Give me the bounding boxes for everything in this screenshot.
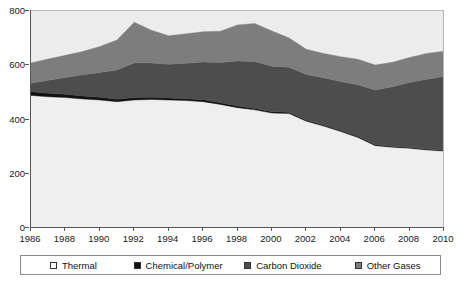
x-tick-mark (202, 227, 203, 231)
legend-item-thermal[interactable]: Thermal (21, 260, 126, 271)
x-tick-label: 1988 (54, 233, 75, 244)
y-tick-label: 600 (9, 59, 25, 70)
x-tick-label: 2000 (260, 233, 281, 244)
x-tick-label: 2008 (398, 233, 419, 244)
y-tick-label: 400 (9, 113, 25, 124)
x-tick-label: 1990 (88, 233, 109, 244)
legend-label: Other Gases (367, 260, 421, 271)
x-tick-mark (237, 227, 238, 231)
x-tick-label: 1998 (226, 233, 247, 244)
legend-label: Chemical/Polymer (146, 260, 223, 271)
x-tick-mark (374, 227, 375, 231)
x-tick-mark (30, 227, 31, 231)
x-tick-mark (64, 227, 65, 231)
legend-item-chemical-polymer[interactable]: Chemical/Polymer (126, 260, 231, 271)
plot-area (30, 10, 444, 228)
x-tick-mark (271, 227, 272, 231)
legend-label: Carbon Dioxide (256, 260, 321, 271)
y-tick-mark (25, 173, 29, 174)
x-tick-mark (133, 227, 134, 231)
x-axis: 1986198819901992199419961998200020022004… (30, 227, 443, 257)
legend-item-other-gases[interactable]: Other Gases (335, 260, 440, 271)
stacked-area-series-group (31, 10, 444, 227)
y-tick-label: 0 (20, 222, 25, 233)
x-tick-mark (168, 227, 169, 231)
y-tick-mark (25, 64, 29, 65)
chart-root: 0200400600800 19861988199019921994199619… (0, 0, 462, 281)
y-axis: 0200400600800 (0, 0, 25, 237)
x-tick-label: 1986 (19, 233, 40, 244)
y-tick-mark (25, 227, 29, 228)
y-tick-mark (25, 119, 29, 120)
x-tick-mark (305, 227, 306, 231)
square-swatch-icon (50, 262, 57, 269)
x-tick-mark (443, 227, 444, 231)
x-tick-mark (340, 227, 341, 231)
x-tick-label: 1992 (123, 233, 144, 244)
y-tick-label: 200 (9, 167, 25, 178)
y-tick-label: 800 (9, 5, 25, 16)
x-tick-mark (99, 227, 100, 231)
square-swatch-icon (134, 262, 141, 269)
x-tick-label: 2004 (329, 233, 350, 244)
legend-label: Thermal (62, 260, 97, 271)
x-tick-mark (409, 227, 410, 231)
x-tick-label: 1994 (157, 233, 178, 244)
square-swatch-icon (244, 262, 251, 269)
x-tick-label: 2006 (364, 233, 385, 244)
x-tick-label: 2002 (295, 233, 316, 244)
legend-item-carbon-dioxide[interactable]: Carbon Dioxide (231, 260, 336, 271)
chart-legend: ThermalChemical/PolymerCarbon DioxideOth… (20, 255, 441, 275)
x-tick-label: 1996 (192, 233, 213, 244)
y-tick-mark (25, 10, 29, 11)
square-swatch-icon (355, 262, 362, 269)
x-tick-label: 2010 (432, 233, 453, 244)
